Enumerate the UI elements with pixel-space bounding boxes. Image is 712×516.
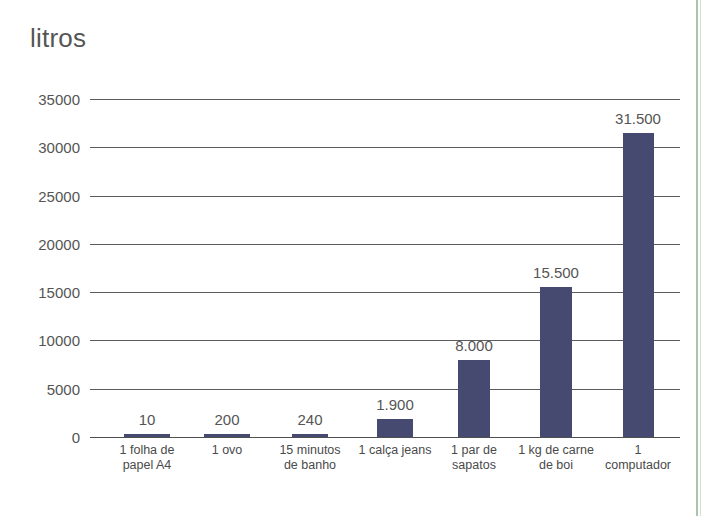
page-edge-rule	[696, 0, 698, 516]
x-axis-category-labels: 1 folha de papel A41 ovo15 minutos de ba…	[90, 443, 680, 493]
bar	[458, 360, 490, 437]
y-axis-tick-label: 35000	[10, 92, 80, 107]
bar-value-label: 240	[297, 412, 322, 427]
x-axis-category-label: 15 minutos de banho	[279, 443, 340, 473]
y-axis-tick-label: 25000	[10, 188, 80, 203]
bar-value-label: 1.900	[376, 397, 414, 412]
chart-title: litros	[30, 25, 86, 51]
y-axis-tick-label: 0	[10, 430, 80, 445]
bar	[124, 434, 170, 437]
x-axis-category-label: 1 calça jeans	[359, 443, 432, 458]
plot-area: 102002401.9008.00015.50031.500	[90, 99, 680, 437]
bar-value-label: 10	[139, 412, 156, 427]
page-edge-rule-secondary	[700, 0, 701, 516]
x-axis-category-label: 1 computador	[605, 443, 671, 473]
y-axis-tick-label: 30000	[10, 140, 80, 155]
gridline	[90, 147, 680, 148]
bar	[377, 419, 413, 437]
gridline	[90, 389, 680, 390]
x-axis-category-label: 1 kg de carne de boi	[518, 443, 594, 473]
gridline	[90, 99, 680, 100]
gridline	[90, 292, 680, 293]
bar-value-label: 15.500	[533, 265, 579, 280]
bar-value-label: 8.000	[455, 338, 493, 353]
gridline	[90, 196, 680, 197]
y-axis-tick-label: 10000	[10, 333, 80, 348]
bar-value-label: 200	[214, 412, 239, 427]
bar	[204, 434, 250, 437]
bar	[623, 133, 654, 437]
gridline	[90, 340, 680, 341]
gridline	[90, 244, 680, 245]
bar-value-label: 31.500	[615, 111, 661, 126]
x-axis-category-label: 1 ovo	[212, 443, 243, 458]
bar	[540, 287, 572, 437]
y-axis-tick-label: 15000	[10, 285, 80, 300]
y-axis-tick-label: 20000	[10, 236, 80, 251]
bar-chart: litros 050001000015000200002500030000350…	[0, 0, 712, 516]
y-axis-tick-label: 5000	[10, 381, 80, 396]
x-axis-line	[90, 437, 680, 438]
x-axis-category-label: 1 par de sapatos	[451, 443, 497, 473]
x-axis-category-label: 1 folha de papel A4	[120, 443, 175, 473]
y-axis-tick-labels: 05000100001500020000250003000035000	[8, 99, 80, 437]
bar	[292, 434, 328, 437]
